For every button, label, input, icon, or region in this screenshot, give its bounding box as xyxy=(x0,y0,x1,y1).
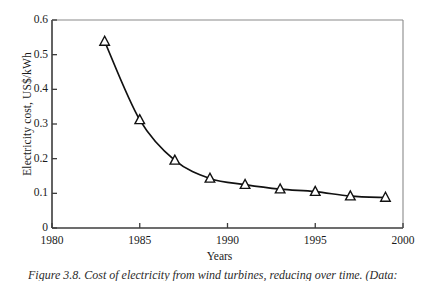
figure-container: 00.10.20.30.40.50.6 19801985199019952000… xyxy=(0,0,427,281)
chart-series xyxy=(100,36,390,201)
data-point-marker xyxy=(135,115,145,124)
figure-caption: Figure 3.8. Cost of electricity from win… xyxy=(28,268,423,281)
x-axis-title: Years xyxy=(0,250,427,262)
x-tick-label: 1980 xyxy=(22,234,82,246)
x-axis-tick-labels: 19801985199019952000 xyxy=(0,0,427,30)
x-tick-label: 1990 xyxy=(198,234,258,246)
x-axis-title-text: Years xyxy=(207,250,233,262)
x-tick-label: 1995 xyxy=(285,234,345,246)
chart-svg xyxy=(0,0,427,250)
y-axis-title: Electricity cost, US$/kWh xyxy=(21,9,33,219)
data-point-marker xyxy=(100,36,110,45)
x-tick-label: 1985 xyxy=(110,234,170,246)
series-line xyxy=(105,41,386,197)
x-tick-label: 2000 xyxy=(373,234,427,246)
y-tick-label: 0 xyxy=(14,222,48,233)
chart-plot-area: 00.10.20.30.40.50.6 19801985199019952000… xyxy=(0,0,427,250)
